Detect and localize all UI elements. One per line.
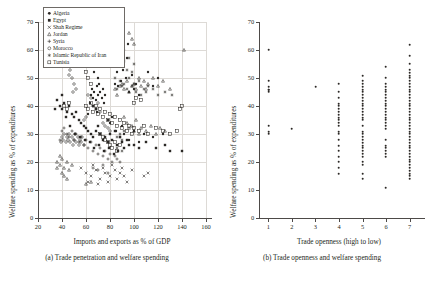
y-axis-tick	[35, 78, 38, 79]
data-point	[127, 31, 131, 35]
data-point	[384, 155, 387, 158]
data-point	[84, 138, 88, 142]
y-axis-tick-label: 10	[12, 186, 33, 193]
data-point	[68, 124, 72, 128]
data-point	[96, 168, 100, 172]
legend-item: Algeria	[46, 10, 121, 17]
x-axis-tick	[134, 219, 135, 222]
panel-b-x-axis-title: Trade openness (high to low)	[239, 238, 429, 246]
data-point	[70, 163, 74, 167]
data-point	[115, 87, 119, 91]
data-point	[96, 124, 100, 128]
data-point	[134, 96, 138, 100]
legend-item: Egypt	[46, 17, 121, 24]
data-point	[103, 93, 107, 97]
x-axis-tick-label: 2	[280, 223, 304, 230]
data-point	[137, 140, 141, 144]
data-point	[115, 177, 119, 181]
data-point	[337, 166, 340, 169]
y-axis-tick-label: 0	[12, 214, 33, 221]
figure-root: Welfare spending as % of expenditures 01…	[0, 0, 429, 283]
data-point	[53, 107, 57, 111]
gridline-vertical	[158, 22, 159, 218]
y-axis-tick	[35, 50, 38, 51]
panel-a-x-axis-title: Imports and exports as % of GDP	[18, 238, 226, 246]
data-point	[91, 135, 95, 139]
data-point	[84, 182, 88, 186]
data-point	[267, 124, 270, 127]
data-point	[144, 90, 148, 94]
data-point	[65, 177, 69, 181]
x-axis-tick-label: 1	[256, 223, 280, 230]
data-point	[144, 140, 148, 144]
data-point	[146, 84, 150, 88]
y-axis-tick-label: 50	[12, 74, 33, 81]
legend-marker-icon	[46, 11, 53, 16]
data-point	[91, 166, 95, 170]
x-axis-line	[259, 218, 425, 219]
legend-item-label: Algeria	[53, 10, 69, 17]
y-axis-tick-label: 10	[233, 186, 254, 193]
data-point	[137, 129, 141, 133]
legend-item-label: Tunisia	[53, 59, 69, 66]
data-point	[408, 54, 411, 57]
y-axis-tick	[256, 106, 259, 107]
y-axis-tick	[256, 78, 259, 79]
x-axis-tick-label: 60	[74, 223, 98, 230]
data-point	[120, 138, 124, 142]
data-point	[130, 70, 134, 74]
data-point	[127, 76, 131, 80]
data-point	[113, 82, 117, 86]
data-point	[110, 160, 114, 164]
x-axis-tick	[410, 219, 411, 222]
legend-item-label: Shah Regime	[53, 24, 82, 31]
x-axis-tick	[363, 219, 364, 222]
data-point	[79, 166, 83, 170]
data-point	[86, 107, 90, 111]
legend-marker-icon	[46, 46, 53, 51]
data-point	[408, 62, 411, 65]
data-point	[180, 149, 184, 153]
y-axis-tick	[35, 162, 38, 163]
data-point	[110, 146, 114, 150]
legend-marker-icon	[46, 53, 53, 58]
y-axis-tick	[256, 22, 259, 23]
data-point	[132, 126, 136, 130]
legend: AlgeriaEgyptShah RegimeJordanSyriaMorocc…	[43, 7, 125, 68]
data-point	[139, 93, 143, 97]
data-point	[67, 168, 71, 172]
x-axis-line	[38, 218, 212, 219]
data-point	[84, 70, 88, 74]
data-point	[60, 93, 64, 97]
data-point	[98, 177, 102, 181]
x-axis-tick	[182, 219, 183, 222]
data-point	[115, 149, 119, 153]
data-point	[89, 140, 93, 144]
data-point	[267, 90, 270, 93]
data-point	[337, 82, 340, 85]
data-point	[132, 101, 136, 105]
y-axis-tick-label: 40	[233, 102, 254, 109]
legend-item-label: Islamic Republic of Iran	[53, 52, 106, 59]
data-point	[118, 118, 122, 122]
data-point	[96, 152, 100, 156]
data-point	[161, 79, 165, 83]
data-point	[125, 138, 129, 142]
data-point	[122, 82, 126, 86]
data-point	[118, 79, 122, 83]
data-point	[94, 129, 98, 133]
data-point	[86, 93, 90, 97]
data-point	[149, 124, 153, 128]
data-point	[92, 70, 96, 74]
data-point	[337, 124, 340, 127]
y-axis-tick-label: 40	[12, 102, 33, 109]
data-point	[337, 144, 340, 147]
data-point	[106, 180, 110, 184]
y-axis-tick-label: 0	[233, 214, 254, 221]
data-point	[361, 118, 364, 121]
y-axis-tick-label: 20	[233, 158, 254, 165]
data-point	[94, 143, 98, 147]
data-point	[89, 180, 93, 184]
data-point	[91, 149, 95, 153]
x-axis-tick	[110, 219, 111, 222]
